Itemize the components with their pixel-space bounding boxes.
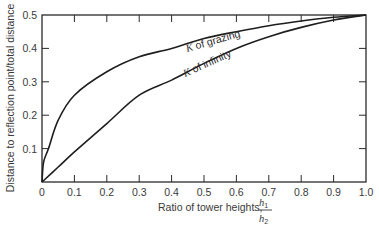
x-tick-label: 0.8 — [294, 186, 309, 198]
y-axis-title-text: Distance to reflection point/total dista… — [4, 4, 16, 193]
x-axis-fraction-numerator: h1 — [259, 197, 268, 209]
x-tick-label: 0.3 — [132, 186, 147, 198]
x-tick-label: 0.1 — [67, 186, 82, 198]
x-tick-label: 0.2 — [99, 186, 114, 198]
y-tick-label: 0.5 — [22, 9, 37, 21]
x-tick-label: 0.9 — [326, 186, 341, 198]
y-axis-ticks: 0.10.20.30.40.5 — [22, 9, 366, 155]
y-tick-label: 0.1 — [22, 143, 37, 155]
y-axis-title: Distance to reflection point/total dista… — [4, 4, 16, 193]
x-axis-fraction-denominator: h2 — [259, 213, 268, 225]
y-tick-label: 0.4 — [22, 42, 37, 54]
x-tick-label: 1.0 — [359, 186, 374, 198]
x-axis-title-text: Ratio of tower heights, — [158, 201, 262, 213]
reflection-point-chart: Distance to reflection point/total dista… — [0, 0, 379, 226]
x-tick-label: 0.5 — [197, 186, 212, 198]
x-axis-title: Ratio of tower heights, h1 h2 — [158, 197, 272, 225]
x-tick-label: 0.6 — [229, 186, 244, 198]
y-tick-label: 0.3 — [22, 76, 37, 88]
x-tick-label: 0 — [39, 186, 45, 198]
y-tick-label: 0.2 — [22, 109, 37, 121]
x-tick-label: 0.4 — [164, 186, 179, 198]
